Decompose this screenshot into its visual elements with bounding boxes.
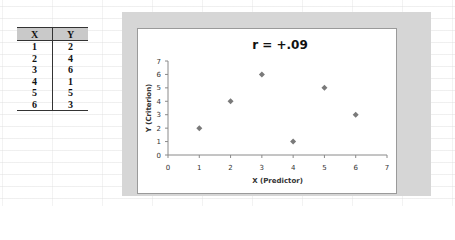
cell-y[interactable]: 3 [53, 99, 89, 111]
x-tick-label: 4 [291, 164, 296, 172]
table-row: 41 [17, 76, 88, 88]
x-tick-label: 2 [228, 164, 232, 172]
y-tick-label: 3 [157, 111, 161, 119]
x-tick-label: 3 [260, 164, 264, 172]
header-x: X [17, 28, 53, 41]
cell-y[interactable]: 2 [53, 41, 89, 53]
cell-x[interactable]: 5 [17, 87, 53, 99]
x-tick-label: 6 [353, 164, 358, 172]
x-tick-label: 0 [166, 164, 170, 172]
y-tick-label: 6 [157, 71, 162, 79]
data-point-diamond [290, 139, 296, 145]
y-tick-label: 7 [157, 58, 161, 66]
x-tick-label: 1 [197, 164, 201, 172]
scatter-chart[interactable]: r = +.09 0123456701234567X (Predictor)Y … [137, 28, 397, 194]
y-tick-label: 0 [157, 152, 161, 160]
cell-x[interactable]: 1 [17, 41, 53, 53]
cell-y[interactable]: 1 [53, 76, 89, 88]
cell-y[interactable]: 5 [53, 87, 89, 99]
data-point-diamond [259, 71, 265, 77]
data-table: X Y 12 24 36 41 55 63 [17, 27, 88, 111]
data-point-diamond [321, 85, 327, 91]
cell-x[interactable]: 3 [17, 64, 53, 76]
table-row: 24 [17, 53, 88, 65]
cell-x[interactable]: 2 [17, 53, 53, 65]
x-axis-label: X (Predictor) [252, 177, 303, 185]
table-row: 12 [17, 41, 88, 53]
table-row: 55 [17, 87, 88, 99]
cell-y[interactable]: 6 [53, 64, 89, 76]
x-tick-label: 7 [385, 164, 389, 172]
y-tick-label: 1 [157, 138, 161, 146]
data-point-diamond [353, 112, 359, 118]
cell-x[interactable]: 4 [17, 76, 53, 88]
plot-area: 0123456701234567X (Predictor)Y (Criterio… [138, 29, 396, 193]
y-tick-label: 5 [157, 84, 161, 92]
table-row: 63 [17, 99, 88, 111]
table-row: 36 [17, 64, 88, 76]
header-y: Y [53, 28, 89, 41]
y-tick-label: 2 [157, 125, 161, 133]
cell-y[interactable]: 4 [53, 53, 89, 65]
data-point-diamond [228, 98, 234, 104]
y-axis-label: Y (Criterion) [145, 84, 153, 134]
x-tick-label: 5 [322, 164, 326, 172]
data-point-diamond [196, 125, 202, 131]
y-tick-label: 4 [157, 98, 162, 106]
cell-x[interactable]: 6 [17, 99, 53, 111]
